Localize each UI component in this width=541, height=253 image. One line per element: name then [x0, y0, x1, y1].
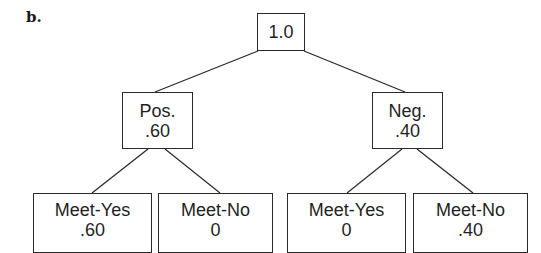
root-value: 1.0 — [268, 22, 293, 42]
node-value: .40 — [395, 121, 420, 141]
node-value: .60 — [145, 121, 170, 141]
root-node: 1.0 — [257, 13, 305, 51]
node-negative: Neg. .40 — [372, 92, 443, 149]
leaf-pos-meet-no: Meet-No 0 — [158, 193, 273, 253]
leaf-label: Meet-No — [436, 200, 505, 220]
node-label: Neg. — [388, 101, 426, 121]
edge-root-pos — [155, 51, 258, 92]
edge-root-neg — [304, 51, 405, 92]
leaf-pos-meet-yes: Meet-Yes .60 — [33, 193, 152, 253]
leaf-value: .40 — [458, 220, 483, 240]
leaf-value: 0 — [210, 220, 220, 240]
edge-neg-meet-no — [417, 149, 473, 193]
leaf-neg-meet-yes: Meet-Yes 0 — [287, 193, 406, 253]
leaf-neg-meet-no: Meet-No .40 — [413, 193, 528, 253]
edge-pos-meet-no — [165, 149, 220, 193]
node-positive: Pos. .60 — [122, 92, 193, 149]
leaf-value: 0 — [341, 220, 351, 240]
edge-pos-meet-yes — [92, 149, 148, 193]
leaf-label: Meet-Yes — [55, 200, 130, 220]
leaf-label: Meet-No — [181, 200, 250, 220]
node-label: Pos. — [139, 101, 175, 121]
leaf-value: .60 — [80, 220, 105, 240]
edge-neg-meet-yes — [347, 149, 402, 193]
leaf-label: Meet-Yes — [309, 200, 384, 220]
